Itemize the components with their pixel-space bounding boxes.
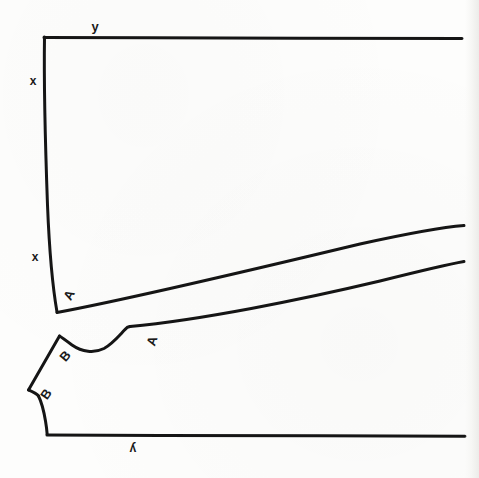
lower-top-edge	[130, 262, 464, 327]
lower-shoulder-upper-edge	[29, 336, 60, 390]
lower-neckline-curve	[60, 327, 131, 352]
annotation-label-x-lower: x	[32, 251, 39, 263]
pattern-drawing	[0, 0, 479, 478]
lower-bottom-edge	[47, 435, 465, 436]
lower-side-curve	[39, 396, 48, 435]
annotation-label-y-top: y	[91, 20, 98, 33]
upper-left-edge	[44, 37, 57, 312]
annotation-label-x-upper: x	[30, 75, 37, 87]
upper-top-edge	[44, 38, 462, 39]
upper-diagonal-edge	[57, 226, 464, 313]
pattern-diagram-canvas: yxxAABBy	[0, 0, 479, 478]
annotation-label-y-bottom: y	[130, 443, 137, 455]
